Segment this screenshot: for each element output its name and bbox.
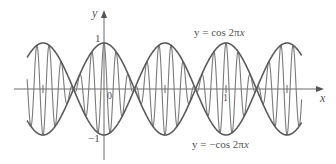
upper-curve-label: y = cos 2πx bbox=[194, 26, 245, 38]
lower-curve-label-var: x bbox=[243, 138, 249, 150]
lower-curve-label-prefix: y = −cos 2π bbox=[192, 138, 244, 150]
upper-curve-label-var: x bbox=[239, 26, 245, 38]
y-tick-label-1: 1 bbox=[95, 32, 101, 44]
y-axis-label: y bbox=[91, 6, 98, 20]
y-axis-arrow-icon bbox=[101, 10, 107, 18]
upper-curve-label-prefix: y = cos 2π bbox=[194, 26, 240, 38]
y-tick-label-minus-1: −1 bbox=[88, 132, 100, 144]
lower-curve-label: y = −cos 2πx bbox=[192, 138, 249, 150]
x-axis-label: x bbox=[319, 91, 326, 105]
chart-plot: y x 1 −1 0 1 y = cos 2πx y = −cos 2πx bbox=[0, 0, 336, 164]
origin-label: 0 bbox=[107, 90, 112, 101]
x-tick-label-1: 1 bbox=[223, 92, 228, 103]
